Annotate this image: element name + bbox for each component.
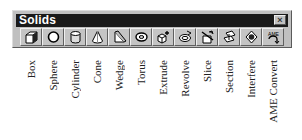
close-button[interactable]: × <box>274 15 286 25</box>
label-torus: Torus <box>130 60 152 140</box>
label-sphere: Sphere <box>42 60 64 140</box>
interfere-icon <box>244 30 259 44</box>
label-revolve: Revolve <box>174 60 196 140</box>
section-icon <box>222 30 237 44</box>
ame-convert-button[interactable]: AME <box>262 28 284 46</box>
button-labels: Box Sphere Cylinder Cone Wedge Torus Ext… <box>20 60 290 140</box>
wedge-icon <box>112 30 127 44</box>
window-title: Solids <box>19 13 56 27</box>
cone-button[interactable] <box>86 28 108 46</box>
box-button[interactable] <box>20 28 42 46</box>
button-row: AME <box>20 28 284 46</box>
close-icon: × <box>277 15 282 25</box>
slice-button[interactable] <box>196 28 218 46</box>
torus-icon <box>134 30 149 44</box>
wedge-button[interactable] <box>108 28 130 46</box>
torus-button[interactable] <box>130 28 152 46</box>
cylinder-button[interactable] <box>64 28 86 46</box>
label-wedge: Wedge <box>108 60 130 140</box>
cylinder-icon <box>68 30 83 44</box>
label-box: Box <box>20 60 42 140</box>
box-icon <box>24 30 39 44</box>
extrude-button[interactable] <box>152 28 174 46</box>
revolve-icon <box>178 30 193 44</box>
cone-icon <box>90 30 105 44</box>
solids-toolbar-window: Solids × <box>12 10 292 48</box>
label-slice: Slice <box>196 60 218 140</box>
sphere-icon <box>46 30 61 44</box>
titlebar[interactable]: Solids × <box>16 14 288 27</box>
sphere-button[interactable] <box>42 28 64 46</box>
section-button[interactable] <box>218 28 240 46</box>
ame-convert-icon: AME <box>266 30 281 44</box>
revolve-button[interactable] <box>174 28 196 46</box>
label-interfere: Interfere <box>240 60 262 140</box>
slice-icon <box>200 30 215 44</box>
label-ame-convert: AME Convert <box>262 60 284 140</box>
label-extrude: Extrude <box>152 60 174 140</box>
label-section: Section <box>218 60 240 140</box>
extrude-icon <box>156 30 171 44</box>
interfere-button[interactable] <box>240 28 262 46</box>
label-cone: Cone <box>86 60 108 140</box>
label-cylinder: Cylinder <box>64 60 86 140</box>
